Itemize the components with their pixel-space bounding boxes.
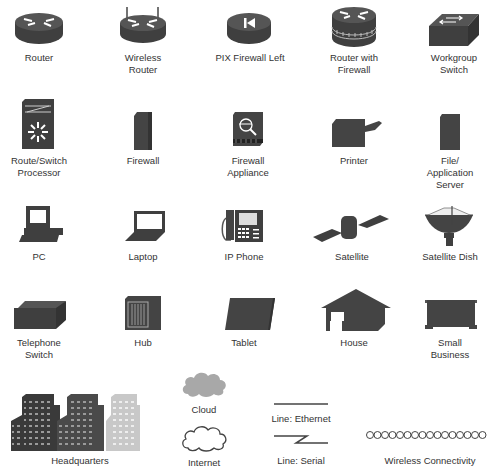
satellite-icon bbox=[312, 213, 390, 243]
label-cloud: Cloud bbox=[165, 404, 243, 416]
label-satellite-dish: Satellite Dish bbox=[411, 251, 489, 263]
satellite-dish-icon bbox=[424, 205, 474, 247]
label-line-serial: Line: Serial bbox=[262, 455, 340, 467]
server-icon bbox=[439, 113, 461, 151]
firewall-appliance-icon bbox=[232, 111, 264, 147]
router-firewall-icon bbox=[331, 6, 377, 48]
headquarters-icon bbox=[10, 393, 140, 453]
label-pix-firewall-left: PIX Firewall Left bbox=[200, 52, 300, 64]
telephone-switch-icon bbox=[13, 300, 67, 330]
label-laptop: Laptop bbox=[104, 251, 182, 263]
label-router: Router bbox=[0, 52, 78, 64]
label-pc: PC bbox=[0, 251, 78, 263]
label-firewall-appliance: Firewall Appliance bbox=[209, 155, 287, 179]
label-satellite: Satellite bbox=[313, 251, 391, 263]
ip-phone-icon bbox=[221, 208, 267, 244]
serial-line-icon bbox=[273, 433, 329, 445]
label-workgroup-switch: Workgroup Switch bbox=[415, 52, 492, 76]
label-file-application-server: File/ Application Server bbox=[411, 155, 489, 191]
label-wireless-router: Wireless Router bbox=[104, 52, 182, 76]
wireless-connectivity-icon bbox=[366, 430, 490, 440]
label-route-switch-processor: Route/Switch Processor bbox=[0, 155, 78, 179]
workgroup-switch-icon bbox=[428, 13, 480, 47]
hub-icon bbox=[124, 295, 162, 331]
small-business-icon bbox=[424, 297, 478, 331]
label-firewall: Firewall bbox=[104, 155, 182, 167]
firewall-icon bbox=[133, 111, 153, 151]
label-router-with-firewall: Router with Firewall bbox=[315, 52, 393, 76]
label-printer: Printer bbox=[315, 155, 393, 167]
label-wireless-connectivity: Wireless Connectivity bbox=[370, 455, 490, 467]
label-telephone-switch: Telephone Switch bbox=[0, 337, 78, 361]
route-switch-processor-icon bbox=[21, 98, 55, 150]
internet-icon bbox=[180, 423, 230, 453]
wireless-router-icon bbox=[119, 5, 167, 47]
ethernet-line-icon bbox=[273, 402, 329, 406]
label-internet: Internet bbox=[165, 457, 243, 469]
printer-icon bbox=[331, 118, 383, 148]
laptop-icon bbox=[124, 210, 166, 242]
house-icon bbox=[320, 288, 392, 332]
label-house: House bbox=[315, 337, 393, 349]
label-line-ethernet: Line: Ethernet bbox=[262, 413, 340, 425]
label-tablet: Tablet bbox=[205, 337, 283, 349]
label-headquarters: Headquarters bbox=[30, 455, 130, 467]
label-ip-phone: IP Phone bbox=[205, 251, 283, 263]
tablet-icon bbox=[224, 297, 276, 331]
cloud-icon bbox=[180, 370, 228, 398]
label-small-business: Small Business bbox=[411, 337, 489, 361]
pix-firewall-icon bbox=[226, 12, 272, 46]
pc-icon bbox=[18, 205, 64, 243]
label-hub: Hub bbox=[104, 337, 182, 349]
router-icon bbox=[14, 12, 64, 46]
